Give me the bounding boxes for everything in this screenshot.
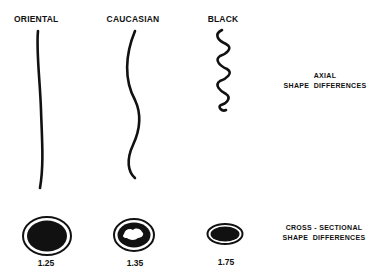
cross-line2: SHAPE DIFFERENCES (276, 233, 372, 243)
axial-line1: AXIAL (280, 71, 370, 81)
ratio-black: 1.75 (206, 257, 246, 267)
caucasian-cross-section (114, 219, 154, 251)
oriental-hair-strand (37, 31, 42, 188)
axial-annotation: AXIAL SHAPE DIFFERENCES (280, 71, 370, 91)
cross-line1: CROSS - SECTIONAL (276, 223, 372, 233)
oriental-cross-section (23, 217, 71, 255)
ratio-caucasian: 1.35 (115, 258, 155, 268)
ratio-oriental: 1.25 (26, 258, 66, 268)
axial-line2: SHAPE DIFFERENCES (280, 81, 370, 91)
caucasian-hair-strand (127, 31, 139, 178)
black-hair-strand (217, 30, 229, 110)
cross-section-annotation: CROSS - SECTIONAL SHAPE DIFFERENCES (276, 223, 372, 243)
black-cross-section (208, 224, 243, 244)
